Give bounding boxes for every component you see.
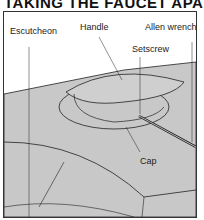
diagram-title: TAKING THE FAUCET APART [4, 0, 204, 11]
faucet-illustration [4, 12, 196, 217]
label-escutcheon: Escutcheon [10, 26, 57, 36]
label-allen-wrench: Allen wrench [145, 22, 197, 32]
diagram-frame: Escutcheon Handle Allen wrench Setscrew … [3, 11, 197, 218]
label-cap: Cap [140, 156, 157, 166]
label-handle: Handle [80, 22, 109, 32]
label-setscrew: Setscrew [132, 44, 169, 54]
